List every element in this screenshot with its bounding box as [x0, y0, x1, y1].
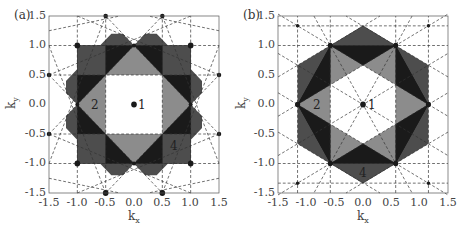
panel-a: (a) [0, 0, 230, 230]
xtick: 0.0 [348, 196, 378, 209]
ytick: 1.5 [18, 9, 46, 22]
xtick: 1.0 [175, 196, 205, 209]
xtick: -1.0 [291, 196, 321, 209]
zone-label-2: 2 [91, 98, 99, 112]
xtick: -0.5 [90, 196, 120, 209]
xtick: -1.0 [62, 196, 92, 209]
ytick: 0.5 [247, 68, 275, 81]
x-axis-label: kx [357, 209, 369, 225]
ytick: 1.0 [18, 38, 46, 51]
xtick: 0.5 [147, 196, 177, 209]
xtick: 0.5 [376, 196, 406, 209]
ytick: 1.5 [247, 9, 275, 22]
ytick: -1.0 [247, 156, 275, 169]
zone-label-1: 1 [368, 98, 376, 112]
zone-label-4: 4 [359, 166, 367, 180]
ytick: 1.0 [247, 38, 275, 51]
ytick: -0.5 [247, 127, 275, 140]
xtick: 0.0 [119, 196, 149, 209]
plot-area-a [49, 16, 219, 193]
ytick: 0.0 [18, 97, 46, 110]
ytick: 0.0 [247, 97, 275, 110]
panel-b: (b) [230, 0, 460, 230]
xtick: -0.5 [319, 196, 349, 209]
lattice-points-a [47, 14, 222, 196]
zone-label-1: 1 [138, 98, 146, 112]
ytick: -1.0 [18, 156, 46, 169]
y-axis-label: ky [234, 97, 250, 109]
xtick: 1.5 [433, 196, 461, 209]
y-axis-label: ky [4, 97, 20, 109]
xtick: 1.0 [404, 196, 434, 209]
x-axis-label: kx [128, 209, 140, 225]
ytick: 0.5 [18, 68, 46, 81]
xtick: -1.5 [34, 196, 64, 209]
zone-label-4: 4 [170, 139, 178, 153]
ytick: -0.5 [18, 127, 46, 140]
xtick: -1.5 [263, 196, 293, 209]
zone-label-2: 2 [313, 98, 321, 112]
